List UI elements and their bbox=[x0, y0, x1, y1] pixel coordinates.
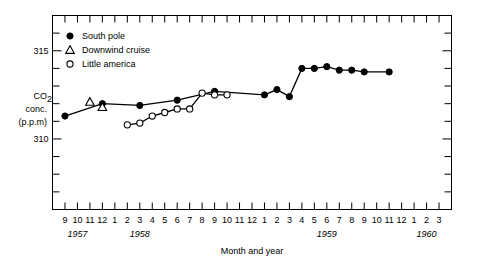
x-tick-label: 1 bbox=[262, 215, 267, 225]
x-tick-label: 5 bbox=[162, 215, 167, 225]
y-tick-label: 315 bbox=[33, 46, 48, 56]
data-point bbox=[162, 109, 168, 115]
data-point bbox=[137, 120, 143, 126]
data-point bbox=[286, 94, 292, 100]
y-axis-title-line-2: conc. bbox=[25, 104, 47, 114]
x-tick-label: 12 bbox=[397, 215, 407, 225]
x-tick-label: 8 bbox=[349, 215, 354, 225]
x-tick-label: 4 bbox=[299, 215, 304, 225]
x-year-label: 1957 bbox=[67, 229, 88, 239]
legend-marker-open-circle bbox=[67, 61, 73, 67]
x-tick-label: 9 bbox=[212, 215, 217, 225]
x-tick-label: 12 bbox=[247, 215, 257, 225]
x-tick-label: 2 bbox=[424, 215, 429, 225]
x-tick-label: 1 bbox=[112, 215, 117, 225]
x-tick-label: 7 bbox=[187, 215, 192, 225]
data-point bbox=[386, 69, 392, 75]
x-tick-label: 12 bbox=[97, 215, 107, 225]
x-tick-label: 5 bbox=[312, 215, 317, 225]
legend-label: South pole bbox=[82, 31, 125, 41]
x-tick-label: 9 bbox=[362, 215, 367, 225]
data-point bbox=[299, 65, 305, 71]
x-year-label: 1958 bbox=[130, 229, 150, 239]
legend-marker-filled-circle bbox=[67, 33, 73, 39]
data-point bbox=[349, 67, 355, 73]
x-year-label: 1959 bbox=[317, 229, 337, 239]
x-tick-label: 3 bbox=[287, 215, 292, 225]
x-tick-label: 4 bbox=[150, 215, 155, 225]
data-point bbox=[174, 97, 180, 103]
x-tick-label: 6 bbox=[324, 215, 329, 225]
data-point bbox=[324, 64, 330, 70]
data-point bbox=[224, 92, 230, 98]
x-tick-label: 3 bbox=[437, 215, 442, 225]
data-point bbox=[336, 67, 342, 73]
data-point bbox=[124, 122, 130, 128]
x-tick-label: 3 bbox=[137, 215, 142, 225]
data-point bbox=[199, 90, 205, 96]
y-tick-label: 310 bbox=[33, 134, 48, 144]
x-tick-label: 10 bbox=[72, 215, 82, 225]
data-point bbox=[211, 92, 217, 98]
x-axis-title: Month and year bbox=[221, 246, 284, 256]
x-tick-label: 6 bbox=[175, 215, 180, 225]
x-tick-label: 10 bbox=[222, 215, 232, 225]
data-point bbox=[311, 65, 317, 71]
x-tick-label: 11 bbox=[235, 215, 244, 225]
co2-concentration-chart: 9101112123456789101112123456789101112123… bbox=[0, 0, 477, 272]
data-point bbox=[149, 113, 155, 119]
x-tick-label: 10 bbox=[372, 215, 382, 225]
x-tick-label: 11 bbox=[85, 215, 94, 225]
y-axis-title-line-1: CO bbox=[34, 91, 48, 101]
x-tick-label: 8 bbox=[200, 215, 205, 225]
data-point bbox=[62, 113, 68, 119]
y-axis-title-subscript: 2 bbox=[47, 94, 52, 104]
x-tick-label: 11 bbox=[384, 215, 393, 225]
data-point bbox=[137, 102, 143, 108]
x-tick-label: 2 bbox=[274, 215, 279, 225]
x-tick-label: 1 bbox=[412, 215, 417, 225]
x-tick-label: 2 bbox=[125, 215, 130, 225]
legend-label: Little america bbox=[82, 59, 136, 69]
data-point bbox=[261, 92, 267, 98]
y-axis-title-line-3: (p.p.m) bbox=[18, 117, 47, 127]
legend-label: Downwind cruise bbox=[82, 45, 150, 55]
x-year-label: 1960 bbox=[417, 229, 437, 239]
x-tick-label: 7 bbox=[337, 215, 342, 225]
data-point bbox=[174, 106, 180, 112]
x-tick-label: 9 bbox=[62, 215, 67, 225]
data-point bbox=[361, 69, 367, 75]
data-point bbox=[187, 106, 193, 112]
data-point bbox=[274, 86, 280, 92]
